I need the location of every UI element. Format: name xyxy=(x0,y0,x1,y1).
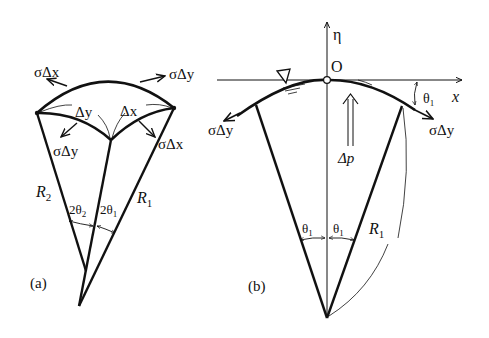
label-inner-right-length: Δx xyxy=(120,103,138,119)
arrow-top-left-icon xyxy=(47,79,67,86)
label-inner-left-length: Δy xyxy=(75,104,93,120)
arrow-top-right-icon xyxy=(140,76,165,82)
arrow-inner-left-icon xyxy=(61,123,77,137)
label-x-axis: x xyxy=(451,88,459,105)
membrane-arc xyxy=(237,80,415,116)
arrow-inner-right-icon xyxy=(139,121,155,137)
label-force-top-left: σΔx xyxy=(34,64,60,80)
label-pressure: Δp xyxy=(337,150,355,166)
outer-arc xyxy=(37,82,174,113)
label-force-top-right: σΔy xyxy=(169,66,195,82)
arrow-force-left-icon xyxy=(224,113,240,121)
label-force-inner-left: σΔy xyxy=(53,143,79,159)
radius-line-left-b xyxy=(256,105,327,318)
panel-a: σΔx σΔy Δy Δx σΔy σΔx R2 R1 2θ2 2θ1 (a) xyxy=(30,64,195,306)
label-origin: O xyxy=(331,58,343,75)
radius-line-middle xyxy=(79,140,111,306)
pressure-arrow-icon xyxy=(343,94,358,104)
panel-b: η O x θ1 σΔy σΔy Δp θ1 θ1 R1 (b) xyxy=(208,22,462,318)
label-radius-b: R1 xyxy=(368,220,384,240)
label-half-angle-right: θ1 xyxy=(333,221,344,238)
label-half-angle-left: θ1 xyxy=(302,221,313,238)
label-tilt-angle: θ1 xyxy=(423,91,434,108)
label-eta-axis: η xyxy=(333,26,341,44)
water-level-icon xyxy=(277,69,290,83)
label-force-left: σΔy xyxy=(208,122,234,138)
panel-b-label: (b) xyxy=(248,278,266,295)
radius-line-right-b xyxy=(327,106,402,318)
membrane-element-diagram: σΔx σΔy Δy Δx σΔy σΔx R2 R1 2θ2 2θ1 (a) xyxy=(0,0,489,338)
label-angle-right: 2θ1 xyxy=(100,202,117,219)
arrow-force-right-icon xyxy=(413,109,433,119)
label-radius-right: R1 xyxy=(136,189,152,209)
label-angle-left: 2θ2 xyxy=(69,202,86,219)
label-force-inner-right: σΔx xyxy=(158,136,184,152)
panel-a-label: (a) xyxy=(30,275,47,292)
label-force-right: σΔy xyxy=(429,122,455,138)
label-radius-left: R2 xyxy=(35,183,51,203)
origin-hinge xyxy=(324,77,331,84)
